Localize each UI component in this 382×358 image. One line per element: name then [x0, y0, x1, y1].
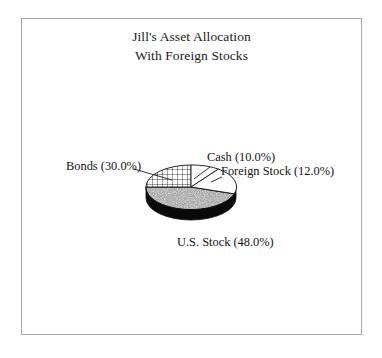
pie-slice-bonds — [146, 165, 191, 187]
slice-label-cash: Cash (10.0%) — [207, 150, 275, 165]
chart-frame: Jill's Asset Allocation With Foreign Sto… — [21, 18, 362, 335]
chart-title-line-1: Jill's Asset Allocation — [22, 27, 361, 46]
pie-slice-cash — [191, 165, 218, 187]
slice-label-us-stock: U.S. Stock (48.0%) — [177, 235, 274, 250]
pie-slice-us-stock — [140, 179, 244, 215]
slice-label-foreign-stock: Foreign Stock (12.0%) — [221, 164, 334, 179]
chart-title-line-2: With Foreign Stocks — [22, 46, 361, 65]
pie-side-wall — [146, 187, 236, 220]
slice-label-bonds: Bonds (30.0%) — [66, 159, 141, 174]
leader-line-cash — [194, 167, 210, 179]
